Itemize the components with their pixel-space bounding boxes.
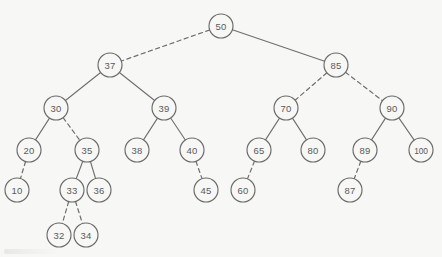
node-label-85: 85 xyxy=(331,60,342,71)
tree-node-36[interactable]: 36 xyxy=(87,178,111,202)
tree-edge-30-20 xyxy=(35,118,49,140)
tree-node-65[interactable]: 65 xyxy=(247,138,271,162)
tree-edge-90-89 xyxy=(371,118,385,140)
tree-edge-20-10 xyxy=(20,161,25,178)
tree-edge-33-32 xyxy=(62,202,68,224)
tree-node-33[interactable]: 33 xyxy=(60,178,84,202)
node-label-65: 65 xyxy=(254,145,265,156)
tree-edge-30-35 xyxy=(63,118,80,141)
tree-edge-70-80 xyxy=(292,118,306,140)
tree-node-80[interactable]: 80 xyxy=(301,138,325,162)
nodes-layer: 5037853039709020353840658089100103336456… xyxy=(5,14,433,247)
tree-edge-35-33 xyxy=(76,161,83,179)
tree-edge-35-36 xyxy=(90,161,95,178)
tree-node-60[interactable]: 60 xyxy=(231,178,255,202)
tree-edge-37-39 xyxy=(119,72,154,100)
tree-edge-85-90 xyxy=(346,72,383,100)
node-label-50: 50 xyxy=(216,21,227,32)
node-label-80: 80 xyxy=(308,145,319,156)
tree-node-45[interactable]: 45 xyxy=(194,178,218,202)
tree-node-10[interactable]: 10 xyxy=(5,178,29,202)
tree-node-20[interactable]: 20 xyxy=(17,138,41,162)
tree-node-70[interactable]: 70 xyxy=(274,96,298,120)
tree-edge-85-70 xyxy=(295,73,327,100)
node-label-90: 90 xyxy=(387,103,398,114)
tree-node-37[interactable]: 37 xyxy=(98,53,122,77)
tree-canvas: 5037853039709020353840658089100103336456… xyxy=(0,0,442,257)
node-label-60: 60 xyxy=(238,185,249,196)
tree-node-89[interactable]: 89 xyxy=(353,138,377,162)
node-label-70: 70 xyxy=(281,103,292,114)
tree-edge-39-40 xyxy=(171,118,186,140)
tree-edge-50-37 xyxy=(121,30,209,61)
tree-node-30[interactable]: 30 xyxy=(44,96,68,120)
tree-edge-33-34 xyxy=(76,201,83,223)
tree-edge-89-87 xyxy=(354,161,361,179)
binary-tree-diagram: 5037853039709020353840658089100103336456… xyxy=(0,0,442,257)
tree-edge-90-100 xyxy=(399,118,414,140)
tree-edge-50-85 xyxy=(232,30,324,61)
node-label-87: 87 xyxy=(345,185,356,196)
node-label-36: 36 xyxy=(94,185,105,196)
node-label-20: 20 xyxy=(24,145,35,156)
tree-edge-39-38 xyxy=(143,118,157,140)
node-label-32: 32 xyxy=(54,230,65,241)
node-label-100: 100 xyxy=(414,146,428,156)
tree-edge-40-45 xyxy=(196,161,202,178)
node-label-33: 33 xyxy=(67,185,78,196)
node-label-34: 34 xyxy=(81,230,92,241)
tree-node-85[interactable]: 85 xyxy=(324,53,348,77)
tree-node-35[interactable]: 35 xyxy=(75,138,99,162)
node-label-39: 39 xyxy=(159,103,170,114)
node-label-10: 10 xyxy=(12,185,23,196)
node-label-37: 37 xyxy=(105,60,116,71)
node-label-45: 45 xyxy=(201,185,212,196)
node-label-40: 40 xyxy=(187,145,198,156)
tree-node-40[interactable]: 40 xyxy=(180,138,204,162)
tree-node-38[interactable]: 38 xyxy=(125,138,149,162)
node-label-38: 38 xyxy=(132,145,143,156)
tree-node-34[interactable]: 34 xyxy=(74,223,98,247)
node-label-35: 35 xyxy=(82,145,93,156)
tree-node-32[interactable]: 32 xyxy=(47,223,71,247)
tree-node-100[interactable]: 100 xyxy=(409,138,433,162)
tree-edge-65-60 xyxy=(247,161,254,179)
node-label-89: 89 xyxy=(360,145,371,156)
tree-edge-37-30 xyxy=(65,72,100,100)
node-label-30: 30 xyxy=(51,103,62,114)
tree-node-50[interactable]: 50 xyxy=(209,14,233,38)
tree-node-87[interactable]: 87 xyxy=(338,178,362,202)
tree-node-39[interactable]: 39 xyxy=(152,96,176,120)
tree-node-90[interactable]: 90 xyxy=(380,96,404,120)
tree-edge-70-65 xyxy=(265,118,279,140)
